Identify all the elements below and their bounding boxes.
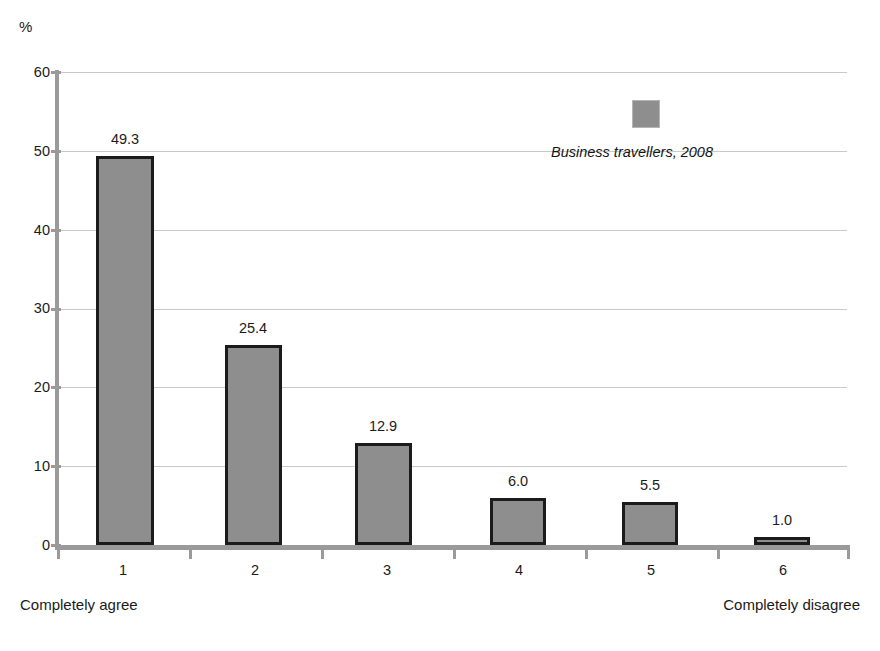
gridline-20 bbox=[57, 387, 847, 388]
x-tick-mark-2 bbox=[321, 550, 324, 559]
x-tick-label-6: 6 bbox=[753, 562, 813, 578]
y-tick-mark-10 bbox=[51, 465, 61, 468]
bar-category-3[interactable] bbox=[355, 443, 412, 545]
gridline-10 bbox=[57, 466, 847, 467]
gridline-60 bbox=[57, 72, 847, 73]
x-tick-label-5: 5 bbox=[621, 562, 681, 578]
y-tick-label-30: 30 bbox=[6, 301, 50, 316]
y-tick-mark-30 bbox=[51, 308, 61, 311]
bar-category-4[interactable] bbox=[490, 498, 546, 545]
y-tick-mark-40 bbox=[51, 229, 61, 232]
y-tick-label-60: 60 bbox=[6, 65, 50, 80]
x-tick-mark-1 bbox=[189, 550, 192, 559]
x-tick-label-2: 2 bbox=[225, 562, 285, 578]
bar-category-5[interactable] bbox=[622, 502, 678, 545]
y-tick-label-0: 0 bbox=[6, 538, 50, 553]
y-tick-label-50: 50 bbox=[6, 144, 50, 159]
bar-value-label-1: 49.3 bbox=[80, 131, 170, 147]
bar-category-1[interactable] bbox=[96, 156, 154, 545]
x-tick-mark-4 bbox=[585, 550, 588, 559]
y-tick-mark-60 bbox=[51, 71, 61, 74]
gridline-50 bbox=[57, 151, 847, 152]
bar-category-6[interactable] bbox=[754, 537, 810, 545]
x-tick-label-1: 1 bbox=[93, 562, 153, 578]
y-tick-mark-20 bbox=[51, 386, 61, 389]
bar-chart: % 60 50 40 30 20 10 0 49.3 25.4 12.9 6.0… bbox=[0, 0, 880, 651]
y-tick-label-40: 40 bbox=[6, 223, 50, 238]
y-axis-labels: 60 50 40 30 20 10 0 bbox=[0, 0, 50, 651]
x-tick-mark-0 bbox=[57, 550, 60, 559]
x-tick-label-3: 3 bbox=[357, 562, 417, 578]
bar-value-label-5: 5.5 bbox=[605, 477, 695, 493]
scale-anchor-high: Completely disagree bbox=[723, 596, 860, 614]
plot-area bbox=[57, 72, 847, 545]
y-tick-label-20: 20 bbox=[6, 380, 50, 395]
x-tick-mark-6 bbox=[847, 550, 850, 559]
bar-value-label-3: 12.9 bbox=[338, 418, 428, 434]
bar-value-label-2: 25.4 bbox=[208, 320, 298, 336]
bar-value-label-6: 1.0 bbox=[737, 512, 827, 528]
gridline-40 bbox=[57, 230, 847, 231]
bar-category-2[interactable] bbox=[225, 345, 282, 545]
legend-label: Business travellers, 2008 bbox=[551, 144, 713, 161]
y-tick-mark-50 bbox=[51, 150, 61, 153]
y-tick-label-10: 10 bbox=[6, 459, 50, 474]
bar-value-label-4: 6.0 bbox=[473, 473, 563, 489]
x-tick-mark-5 bbox=[717, 550, 720, 559]
legend-swatch bbox=[632, 100, 660, 128]
gridline-30 bbox=[57, 309, 847, 310]
x-tick-label-4: 4 bbox=[489, 562, 549, 578]
scale-anchor-low: Completely agree bbox=[20, 596, 138, 614]
bottom-caption-strip bbox=[0, 636, 880, 651]
x-tick-mark-3 bbox=[453, 550, 456, 559]
